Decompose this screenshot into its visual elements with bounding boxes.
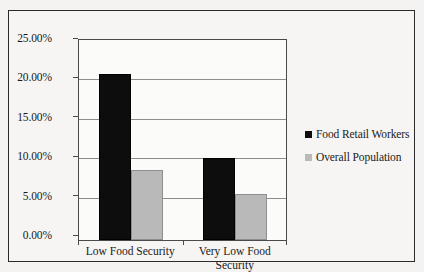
legend-item-overall-population: Overall Population <box>305 152 417 164</box>
x-axis-label-very-low-food-security-line1: Very Low Food <box>199 245 271 257</box>
chart-legend: Food Retail Workers Overall Population <box>305 129 417 174</box>
legend-label-food-retail-workers: Food Retail Workers <box>316 129 409 141</box>
legend-item-food-retail-workers: Food Retail Workers <box>305 129 417 141</box>
bar-very-low-food-security-food-retail-workers <box>203 158 235 241</box>
y-axis-tick-label-0: 0.00% <box>0 230 52 242</box>
y-axis-tick-label-25: 25.00% <box>0 33 52 45</box>
bar-low-food-security-food-retail-workers <box>99 74 131 240</box>
figure-border: 25.00% 20.00% 15.00% 10.00% 5.00% 0.00% <box>8 10 415 262</box>
y-axis-tick-label-5: 5.00% <box>0 191 52 203</box>
plot-area <box>78 39 287 241</box>
x-axis-label-low-food-security: Low Food Security <box>78 245 183 259</box>
legend-label-overall-population: Overall Population <box>316 152 401 164</box>
x-axis-label-low-food-security-line1: Low Food Security <box>86 245 175 257</box>
x-axis-label-very-low-food-security: Very Low Food Security <box>183 245 288 272</box>
chart-figure: 25.00% 20.00% 15.00% 10.00% 5.00% 0.00% <box>0 0 424 272</box>
gray-square-icon <box>305 154 312 161</box>
x-axis-label-very-low-food-security-line2: Security <box>216 259 254 271</box>
bar-very-low-food-security-overall-population <box>235 194 267 240</box>
black-square-icon <box>305 131 312 138</box>
y-axis-tick-label-20: 20.00% <box>0 72 52 84</box>
bar-low-food-security-overall-population <box>131 170 163 240</box>
y-axis-tick-label-10: 10.00% <box>0 151 52 163</box>
y-axis-tick-label-15: 15.00% <box>0 112 52 124</box>
